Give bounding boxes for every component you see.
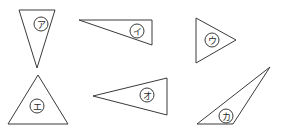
- triangle-o-label: オ: [143, 91, 152, 101]
- triangle-ka-label: カ: [222, 112, 231, 122]
- triangle-e-label: エ: [33, 102, 42, 112]
- triangle-u-label: ウ: [208, 36, 217, 46]
- triangle-ka: カ: [197, 67, 270, 124]
- triangle-ka-shape: [197, 67, 270, 124]
- triangle-o-shape: [93, 78, 167, 115]
- triangle-o: オ: [93, 78, 167, 115]
- triangle-e: エ: [8, 75, 68, 124]
- triangles-diagram: ア イ ウ エ オ カ: [0, 0, 281, 133]
- triangle-a: ア: [19, 10, 55, 68]
- triangle-u: ウ: [196, 18, 236, 63]
- triangle-i-label: イ: [133, 27, 142, 37]
- triangle-a-label: ア: [37, 20, 46, 30]
- triangle-i: イ: [79, 20, 152, 45]
